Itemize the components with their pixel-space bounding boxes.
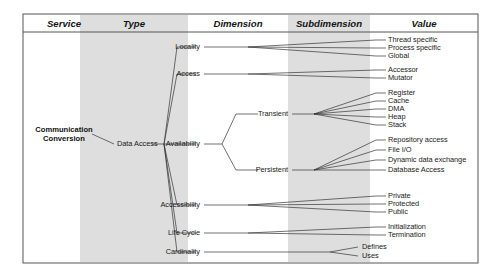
outer-border — [23, 14, 478, 263]
taxonomy-diagram: ServiceTypeDimensionSubdimensionValue Co… — [0, 0, 500, 279]
table-frame — [0, 0, 500, 279]
